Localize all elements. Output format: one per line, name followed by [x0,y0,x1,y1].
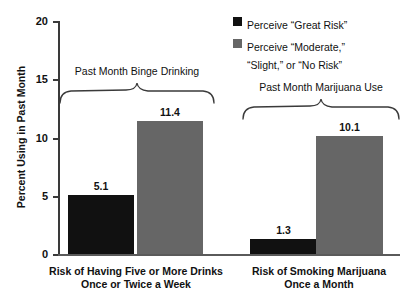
category-label-marijuana-use: Risk of Smoking Marijuana Once a Month [243,265,395,291]
x-axis-line [58,254,400,256]
legend-label-moderate-risk-line2: “Slight,” or “No Risk” [247,59,342,71]
y-tick-label-10: 10 [26,133,48,144]
group-label-marijuana-use: Past Month Marijuana Use [241,82,401,93]
category-label-binge-drinking-line2: Once or Twice a Week [46,278,226,291]
group-brace-binge-drinking [58,82,216,104]
bar-marijuana-great-risk [250,239,317,254]
y-tick-label-0: 0 [26,249,48,260]
legend-label-moderate-risk-line1: Perceive “Moderate,” [247,41,345,53]
group-label-binge-drinking: Past Month Binge Drinking [58,66,216,77]
legend-item-great-risk: Perceive “Great Risk” [233,15,416,33]
category-label-binge-drinking: Risk of Having Five or More Drinks Once … [46,265,226,291]
bar-binge-great-risk [68,195,134,254]
y-tick-mark-15 [53,79,58,81]
y-tick-label-5: 5 [26,191,48,202]
bar-value-marijuana-great-risk: 1.3 [250,225,317,236]
y-axis-line [58,21,60,255]
bar-value-marijuana-moderate-risk: 10.1 [316,122,383,133]
category-label-binge-drinking-line1: Risk of Having Five or More Drinks [46,265,226,278]
legend-label-great-risk: Perceive “Great Risk” [247,19,347,31]
category-label-marijuana-use-line1: Risk of Smoking Marijuana [243,265,395,278]
bar-marijuana-moderate-risk [316,136,383,254]
y-tick-mark-5 [53,196,58,198]
legend-swatch-icon-moderate-risk [233,39,242,48]
y-tick-label-15: 15 [26,74,48,85]
legend: Perceive “Great Risk” Perceive “Moderate… [233,15,416,77]
bar-binge-moderate-risk [137,121,203,254]
y-tick-mark-10 [53,138,58,140]
legend-swatch-icon-great-risk [233,17,242,26]
bar-chart: Percent Using in Past Month 20 15 10 5 0… [0,0,416,303]
bar-value-binge-great-risk: 5.1 [68,181,134,192]
group-brace-marijuana-use [241,98,401,120]
y-tick-label-20: 20 [26,16,48,27]
category-label-marijuana-use-line2: Once a Month [243,278,395,291]
y-tick-mark-20 [53,21,58,23]
legend-item-moderate-risk: Perceive “Moderate,” “Slight,” or “No Ri… [233,37,416,73]
bar-value-binge-moderate-risk: 11.4 [137,107,203,118]
